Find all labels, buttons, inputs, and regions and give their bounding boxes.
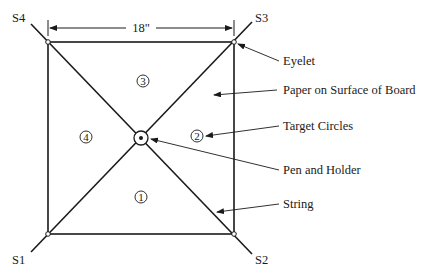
corner-label-s3: S3	[255, 11, 268, 25]
string-board-diagram: 18" S4 S3 S1 S2 3 4 2 1 Eyelet Paper on …	[0, 0, 424, 273]
dimension-label: 18"	[132, 21, 150, 35]
corner-label-s4: S4	[12, 11, 26, 25]
target-circle-2: 2	[191, 130, 203, 142]
callout-paper: Paper on Surface of Board	[283, 83, 416, 97]
svg-text:4: 4	[83, 131, 89, 143]
svg-text:1: 1	[138, 191, 144, 203]
pen-tip	[139, 136, 143, 140]
svg-text:3: 3	[140, 75, 146, 87]
leader-eyelet	[238, 44, 279, 61]
callout-target-circles: Target Circles	[283, 119, 353, 133]
leader-paper	[214, 90, 277, 95]
callout-pen-holder: Pen and Holder	[283, 163, 362, 177]
callout-eyelet: Eyelet	[283, 54, 315, 68]
target-circle-4: 4	[80, 131, 92, 143]
leader-target	[206, 126, 279, 136]
svg-text:2: 2	[194, 130, 200, 142]
eyelet-s3	[232, 40, 237, 45]
eyelet-s4	[46, 40, 51, 45]
eyelet-s2	[232, 232, 237, 237]
corner-label-s1: S1	[12, 253, 25, 267]
target-circle-1: 1	[135, 191, 147, 203]
corner-label-s2: S2	[255, 253, 268, 267]
leader-pen	[151, 139, 279, 170]
target-circle-3: 3	[137, 75, 149, 87]
eyelet-s1	[46, 232, 51, 237]
leader-string	[217, 204, 279, 212]
callout-string: String	[283, 197, 314, 211]
